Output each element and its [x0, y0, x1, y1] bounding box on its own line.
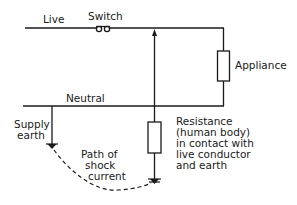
appliance-branch — [218, 28, 230, 106]
appliance-label: Appliance — [235, 60, 287, 71]
contact-arrow-icon — [152, 29, 157, 36]
path-label-line3: current — [88, 171, 126, 182]
switch-label: Switch — [88, 11, 123, 22]
supply-earth-label-line2: earth — [17, 130, 45, 141]
earth-symbol-icon — [46, 144, 58, 149]
neutral-label: Neutral — [66, 93, 105, 104]
circuit-diagram — [0, 0, 297, 205]
live-label: Live — [43, 14, 64, 25]
body-earth-symbol-icon — [148, 179, 161, 184]
switch-icon — [96, 26, 110, 31]
resistance-label-line5: and earth — [176, 160, 227, 171]
